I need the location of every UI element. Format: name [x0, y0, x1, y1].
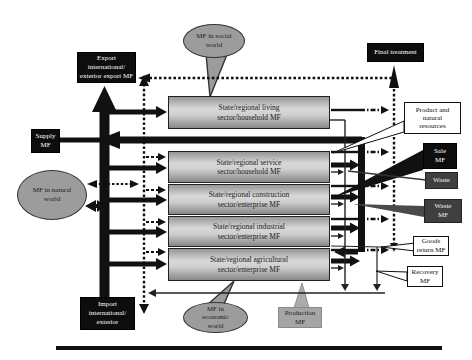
material-flow-diagram: Export international/ exterior export MF… — [0, 0, 472, 360]
sector-agricultural-box: State/regional agricultural sector/enter… — [168, 248, 330, 281]
supply-box: Supply MF — [31, 129, 60, 153]
sector-service-box: State/regional service sector/household … — [168, 151, 330, 183]
export-box: Export international/ exterior export MF — [77, 52, 136, 83]
waste-mf-label: Waste MF — [424, 199, 462, 223]
sector-construction-box: State/regional construction sector/enter… — [168, 184, 330, 215]
trunk-arrow — [92, 86, 117, 299]
sector-living-box: State/regional living sector/household M… — [168, 96, 330, 129]
callout-pointers — [333, 121, 426, 281]
sector-industrial-box: State/regional industrial sector/enterpr… — [168, 216, 330, 247]
natural-world-arrows — [85, 180, 139, 212]
bottom-rule — [56, 346, 442, 350]
goods-return-label: Goods return MF — [413, 236, 449, 256]
import-box: Import international/ exterior — [80, 297, 135, 330]
sale-mf-label: Sale MF — [423, 143, 457, 169]
recovery-mf-label: Recovery MF — [407, 266, 443, 287]
natural-world-bubble: MF in natural world — [17, 170, 87, 220]
production-mf-label: Production MF — [278, 307, 322, 328]
final-treatment-box: Final treatment — [367, 43, 424, 62]
social-world-bubble: MF in social world — [183, 24, 245, 58]
economic-world-bubble: MF in economic world — [183, 302, 248, 333]
waste-label: Waste — [425, 172, 458, 189]
product-resources-label: Product and natural resources — [404, 102, 461, 134]
trunk-to-sector-arrows — [102, 106, 167, 270]
